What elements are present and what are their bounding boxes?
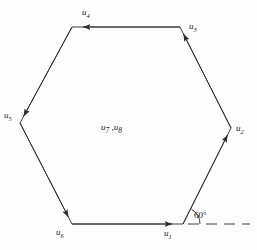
label-u6: u6 <box>56 228 64 237</box>
hexagon-edges <box>20 27 231 224</box>
label-u7-u8: u7 ,u8 <box>101 123 122 134</box>
label-u7: u7 <box>101 122 109 132</box>
edge-u3 <box>180 27 231 128</box>
label-u3: u3 <box>189 22 197 31</box>
label-u8: u8 <box>114 122 122 132</box>
edge-u2 <box>183 128 231 224</box>
edge-u3-arrow <box>184 34 232 128</box>
label-u1: u1 <box>164 229 172 238</box>
diagram-canvas <box>0 0 257 250</box>
label-u2: u2 <box>236 124 244 133</box>
edge-u6-arrow <box>20 123 68 217</box>
hexagon-vector-diagram: u1 u2 u3 u4 u5 u6 u7 ,u8 60° <box>0 0 257 250</box>
label-u5: u5 <box>4 111 12 120</box>
label-u4: u4 <box>82 8 90 17</box>
edge-u5 <box>20 27 72 123</box>
edge-u5-arrow <box>24 27 72 116</box>
angle-label-60-degrees: 60° <box>194 211 207 220</box>
edge-u6 <box>20 123 72 224</box>
